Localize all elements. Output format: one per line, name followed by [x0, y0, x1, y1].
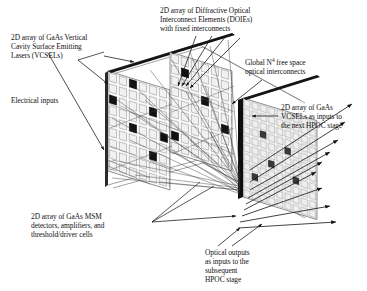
label-msm-detectors: 2D array of GaAs MSM detectors, amplifie…: [31, 212, 149, 239]
label-electrical-inputs: Electrical inputs: [11, 96, 87, 105]
label-next-stage-vcsels: 2D array of GaAs VCSELs as inputs to the…: [281, 103, 367, 130]
label-vcsel-array: 2D array of GaAs Vertical Cavity Surface…: [11, 33, 137, 60]
msm-plane-top-edge: [243, 75, 320, 100]
label-doie-array: 2D array of Diffractive Optical Intercon…: [160, 6, 310, 33]
label-global-prefix: Global N: [245, 58, 272, 67]
label-global-interconnects: Global N4 free space optical interconnec…: [245, 58, 353, 76]
leader-vcsel-a: [78, 60, 108, 84]
leader-msm: [152, 216, 236, 222]
leader-outputs-a: [218, 228, 240, 246]
msm-vcsel-plane: [238, 75, 320, 220]
doie-plane-top-edge: [170, 33, 235, 54]
label-optical-outputs: Optical outputs as inputs to the subsequ…: [205, 248, 289, 284]
msm-plane-left-slab-edge: [238, 98, 243, 199]
figure-canvas: 2D array of GaAs Vertical Cavity Surface…: [0, 0, 367, 291]
vcsel-plane-left-edge: [105, 71, 108, 187]
